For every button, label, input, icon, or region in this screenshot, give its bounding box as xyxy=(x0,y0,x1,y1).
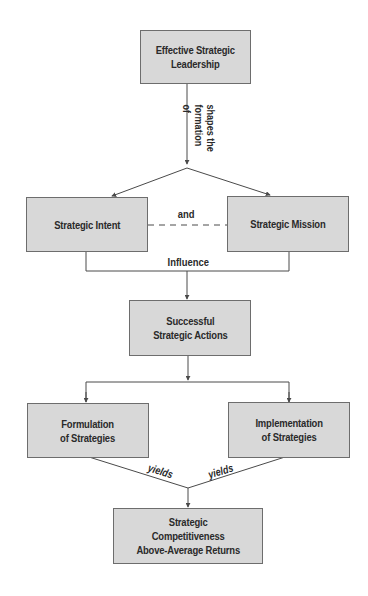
edge-label-influence: Influence xyxy=(168,256,209,268)
node-successful-strategic-actions: Successful Strategic Actions xyxy=(129,300,251,356)
node-label: Formulation of Strategies xyxy=(61,417,116,445)
node-strategic-mission: Strategic Mission xyxy=(227,196,349,252)
edge-label-shapes-formation: shapes the formation of xyxy=(181,105,217,156)
node-label: Successful Strategic Actions xyxy=(153,314,227,342)
node-label: Strategic Competitiveness Above-Average … xyxy=(136,515,240,557)
connector-lines xyxy=(0,0,368,596)
node-label: Strategic Intent xyxy=(54,218,120,232)
node-strategic-intent: Strategic Intent xyxy=(26,197,148,252)
node-label: Implementation of Strategies xyxy=(255,416,322,444)
node-label: Effective Strategic Leadership xyxy=(156,43,235,71)
node-strategic-competitiveness: Strategic Competitiveness Above-Average … xyxy=(113,508,263,564)
node-label: Strategic Mission xyxy=(250,217,325,231)
node-effective-strategic-leadership: Effective Strategic Leadership xyxy=(140,30,251,84)
edge-label-and: and xyxy=(178,208,195,220)
node-formulation-of-strategies: Formulation of Strategies xyxy=(27,403,149,458)
node-implementation-of-strategies: Implementation of Strategies xyxy=(228,402,350,458)
